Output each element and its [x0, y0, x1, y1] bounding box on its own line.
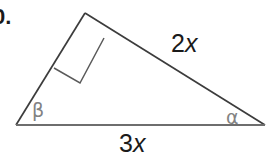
right-triangle-figure: 0. 2x 3x β α [0, 0, 279, 161]
side-label-base: 3x [119, 131, 145, 156]
angle-label-alpha: α [226, 108, 239, 127]
right-angle-marker-icon [54, 38, 104, 83]
triangle-left-leg [16, 13, 85, 125]
side-label-hypotenuse: 2x [171, 31, 197, 56]
angle-label-beta: β [32, 101, 44, 120]
